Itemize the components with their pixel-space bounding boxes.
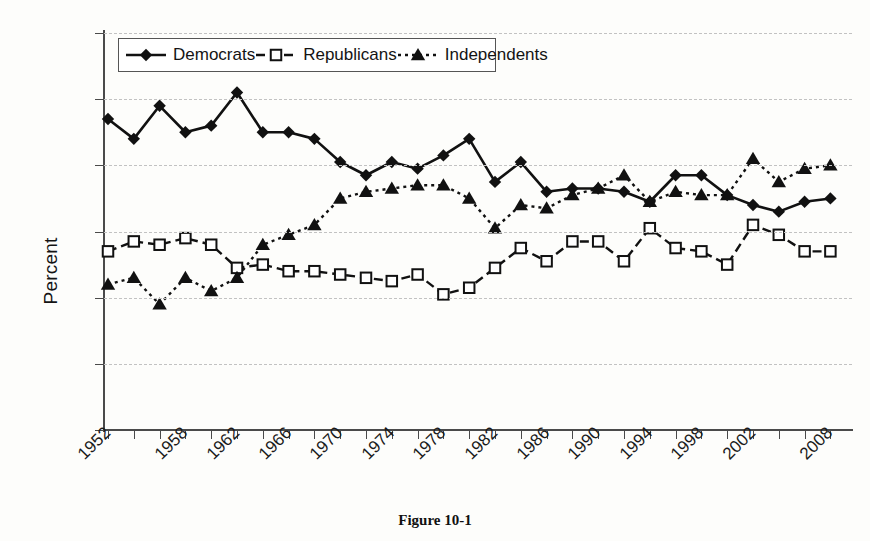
square-marker xyxy=(361,273,372,284)
square-marker xyxy=(541,256,552,267)
gridline xyxy=(104,364,852,365)
y-tick-mark xyxy=(95,33,104,34)
triangle-marker xyxy=(178,271,192,283)
square-marker xyxy=(309,266,320,277)
legend-label: Democrats xyxy=(173,45,255,65)
square-marker xyxy=(567,236,578,247)
gridline xyxy=(104,99,852,100)
x-tick-mark xyxy=(521,430,522,439)
triangle-marker xyxy=(746,152,760,164)
triangle-marker xyxy=(668,185,682,197)
y-tick-mark xyxy=(95,364,104,365)
y-tick-mark xyxy=(95,298,104,299)
diamond-marker xyxy=(747,199,759,211)
square-marker xyxy=(799,246,810,257)
triangle-marker xyxy=(410,178,424,190)
square-marker xyxy=(696,246,707,257)
legend-key-diamond-marker xyxy=(125,48,167,62)
square-marker xyxy=(103,246,114,257)
x-tick-mark xyxy=(624,430,625,439)
triangle-marker xyxy=(462,191,476,203)
square-marker xyxy=(593,236,604,247)
triangle-marker xyxy=(617,168,631,180)
diamond-marker xyxy=(824,192,836,204)
square-marker xyxy=(283,266,294,277)
diamond-marker xyxy=(411,162,423,174)
square-marker xyxy=(180,233,191,244)
chart-legend: DemocratsRepublicansIndependents xyxy=(118,38,496,72)
diamond-marker xyxy=(798,196,810,208)
legend-label: Independents xyxy=(445,45,548,65)
square-marker xyxy=(154,239,165,250)
triangle-marker xyxy=(539,201,553,213)
triangle-marker xyxy=(127,271,141,283)
legend-item-independents[interactable]: Independents xyxy=(397,45,548,65)
x-tick-mark xyxy=(805,430,806,439)
x-tick-mark xyxy=(469,430,470,439)
gridline xyxy=(104,33,852,34)
square-marker xyxy=(258,259,269,270)
square-marker xyxy=(206,239,217,250)
diamond-marker xyxy=(386,156,398,168)
square-marker xyxy=(412,269,423,280)
diamond-marker xyxy=(463,133,475,145)
x-tick-mark xyxy=(160,430,161,439)
x-tick-mark xyxy=(727,430,728,439)
gridline xyxy=(104,165,852,166)
triangle-marker xyxy=(694,188,708,200)
square-marker xyxy=(464,282,475,293)
legend-key-square-marker xyxy=(255,48,297,62)
x-tick-mark xyxy=(572,430,573,439)
y-tick-mark xyxy=(95,232,104,233)
x-tick-mark xyxy=(314,430,315,439)
x-tick-mark xyxy=(418,430,419,439)
legend-item-republicans[interactable]: Republicans xyxy=(255,45,397,65)
x-tick-mark xyxy=(263,430,264,439)
y-tick-mark xyxy=(95,99,104,100)
x-tick-mark xyxy=(211,430,212,439)
diamond-marker xyxy=(282,126,294,138)
square-marker xyxy=(129,236,140,247)
legend-key-triangle-marker xyxy=(397,48,439,62)
figure-caption: Figure 10-1 xyxy=(0,512,870,529)
triangle-marker xyxy=(307,218,321,230)
triangle-marker xyxy=(204,284,218,296)
square-marker xyxy=(490,263,501,274)
diamond-marker xyxy=(437,149,449,161)
diamond-marker xyxy=(773,205,785,217)
square-marker xyxy=(516,243,527,254)
x-tick-mark xyxy=(779,430,780,439)
square-marker xyxy=(722,259,733,270)
y-axis-title: Percent xyxy=(40,237,62,304)
square-marker xyxy=(619,256,630,267)
square-marker xyxy=(670,243,681,254)
diamond-marker xyxy=(360,169,372,181)
square-marker xyxy=(825,246,836,257)
figure-root: Percent 0102030405060 195219581962196619… xyxy=(0,0,870,541)
triangle-marker xyxy=(514,198,528,210)
diamond-marker xyxy=(618,186,630,198)
square-marker xyxy=(271,50,282,61)
legend-label: Republicans xyxy=(303,45,397,65)
square-marker xyxy=(387,276,398,287)
legend-item-democrats[interactable]: Democrats xyxy=(125,45,255,65)
x-tick-mark xyxy=(366,430,367,439)
x-tick-mark xyxy=(134,430,135,439)
y-tick-mark xyxy=(95,165,104,166)
x-tick-mark xyxy=(676,430,677,439)
gridline xyxy=(104,232,852,233)
square-marker xyxy=(335,269,346,280)
diamond-marker xyxy=(140,49,152,61)
triangle-marker xyxy=(333,191,347,203)
gridline xyxy=(104,298,852,299)
square-marker xyxy=(748,220,759,231)
plot-area xyxy=(104,33,852,430)
